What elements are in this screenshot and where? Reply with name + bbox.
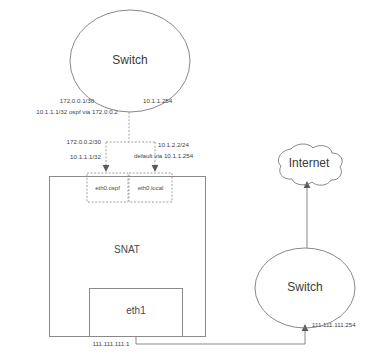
eth0-ospf-label: eth0.ospf bbox=[95, 185, 120, 191]
internet-label: Internet bbox=[289, 156, 330, 170]
label-top-left-primary: 172.0.0.1/30 bbox=[60, 97, 95, 104]
label-mid-right-primary: 10.1.2.2/24 bbox=[158, 141, 190, 148]
eth1-label: eth1 bbox=[126, 305, 146, 316]
label-top-right: 10.1.1.254 bbox=[143, 97, 173, 104]
switch-top-label: Switch bbox=[112, 53, 147, 67]
label-mid-right-secondary: default via 10.1.1.254 bbox=[134, 152, 194, 159]
label-top-left-secondary: 10.1.1.1/32 ospf via 172.0.0.2 bbox=[36, 108, 118, 115]
label-mid-left-secondary: 10.1.1.1/32 bbox=[70, 153, 102, 160]
arrowhead-switch-bottom bbox=[302, 324, 309, 331]
label-bottom-left: 111.111.111.1 bbox=[93, 340, 130, 347]
network-diagram-canvas: Switch 172.0.0.1/30 10.1.1.1/32 ospf via… bbox=[0, 0, 390, 352]
snat-label: SNAT bbox=[114, 244, 140, 255]
eth0-local-label: eth0.local bbox=[138, 185, 164, 191]
label-mid-left-primary: 172.0.0.2/30 bbox=[67, 138, 102, 145]
switch-bottom-label: Switch bbox=[287, 280, 322, 294]
arrowhead-eth0-ospf bbox=[103, 165, 110, 172]
arrowhead-eth0-local bbox=[152, 165, 159, 172]
